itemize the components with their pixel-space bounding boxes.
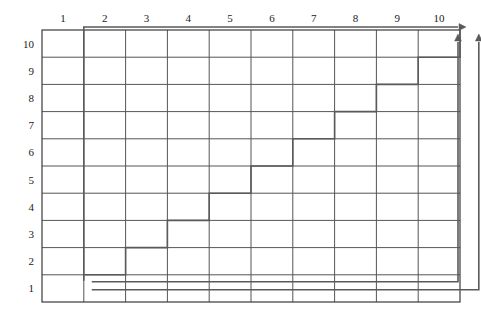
y-axis-label: 1 [29,282,35,294]
diagram-background [0,0,481,321]
y-axis-label: 4 [29,201,35,213]
lattice-diagram-svg: 12345678910 10987654321 [0,0,481,321]
x-axis-label: 3 [144,12,150,24]
y-axis-label: 5 [29,174,35,186]
x-axis-label: 9 [395,12,401,24]
x-axis-label: 5 [227,12,233,24]
x-axis-label: 6 [269,12,275,24]
x-axis-label: 10 [434,12,446,24]
y-axis-label: 3 [29,228,35,240]
lattice-diagram-container: 12345678910 10987654321 [0,0,481,321]
x-axis-label: 1 [60,12,66,24]
y-axis-label: 10 [23,38,35,50]
x-axis-label: 4 [186,12,192,24]
x-axis-label: 8 [353,12,359,24]
x-axis-label: 2 [102,12,108,24]
y-axis-label: 6 [29,146,35,158]
y-axis-label: 9 [29,65,35,77]
y-axis-label: 7 [29,119,35,131]
y-axis-label: 2 [29,255,35,267]
x-axis-label: 7 [311,12,317,24]
y-axis-label: 8 [29,92,35,104]
